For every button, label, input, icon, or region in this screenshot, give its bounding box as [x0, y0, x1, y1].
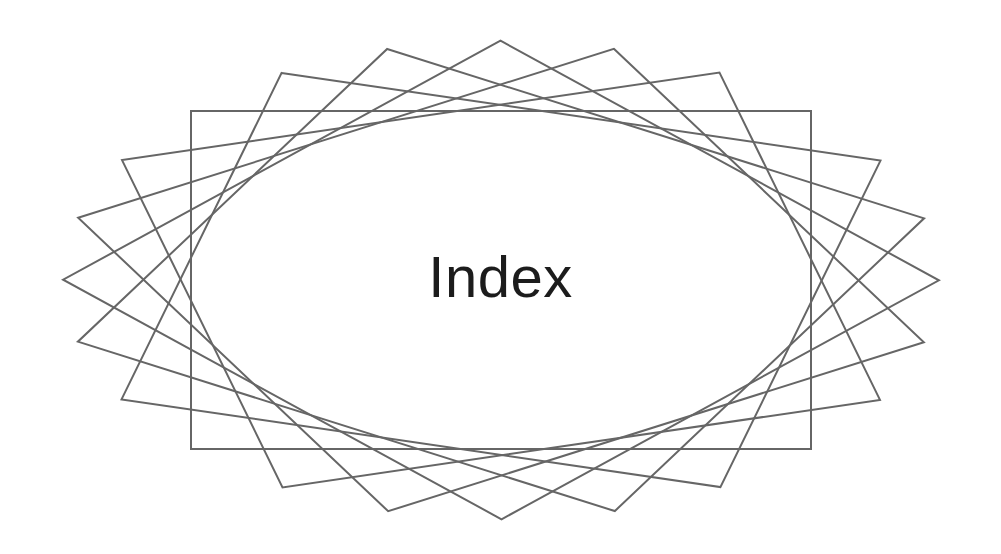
index-page: Index — [0, 0, 1001, 554]
page-background — [0, 0, 1001, 554]
rotating-rectangle-rosette — [0, 0, 1001, 554]
